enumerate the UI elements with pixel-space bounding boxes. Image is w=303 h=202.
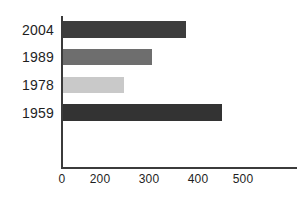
bar-1978 bbox=[63, 77, 124, 93]
x-tick-label-400: 400 bbox=[188, 172, 209, 186]
bar-row: 1959 bbox=[63, 104, 222, 121]
bar-1959 bbox=[63, 104, 222, 121]
x-tick-label-0: 0 bbox=[59, 172, 66, 186]
x-tick-label-500: 500 bbox=[233, 172, 254, 186]
category-label-1989: 1989 bbox=[22, 49, 54, 65]
plot-area: 2004 1989 1978 1959 0 200 300 400 500 bbox=[0, 0, 303, 202]
category-label-1978: 1978 bbox=[22, 77, 54, 93]
x-tick-label-200: 200 bbox=[90, 172, 111, 186]
bar-2004 bbox=[63, 21, 186, 38]
bar-row: 1989 bbox=[63, 49, 152, 65]
bar-chart: 2004 1989 1978 1959 0 200 300 400 500 bbox=[0, 0, 303, 202]
bar-row: 2004 bbox=[63, 21, 186, 38]
category-label-2004: 2004 bbox=[22, 22, 54, 38]
bar-1989 bbox=[63, 49, 152, 65]
category-label-1959: 1959 bbox=[22, 105, 54, 121]
x-axis-line bbox=[61, 167, 297, 169]
x-tick-label-300: 300 bbox=[139, 172, 160, 186]
bar-row: 1978 bbox=[63, 77, 124, 93]
